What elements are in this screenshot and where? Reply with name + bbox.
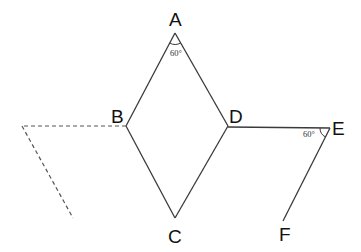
point-label-c: C [168, 226, 182, 247]
angle-arc-e [320, 128, 326, 137]
segment-ad [175, 33, 228, 126]
segment-ef [283, 128, 330, 221]
angle-label-a: 60° [170, 48, 182, 58]
angle-arc-a [170, 43, 181, 44]
segment-ab [126, 33, 175, 126]
geometry-diagram: 60° 60° A B C D E F [0, 0, 361, 252]
segment-bc [126, 126, 175, 218]
point-label-d: D [229, 106, 243, 127]
point-label-a: A [169, 9, 182, 30]
point-label-e: E [332, 118, 345, 139]
dashed-line-slanted [22, 126, 73, 218]
angle-label-e: 60° [303, 129, 315, 139]
segment-de [228, 127, 330, 128]
point-label-b: B [111, 106, 124, 127]
point-label-f: F [279, 224, 291, 245]
segment-cd [175, 126, 228, 218]
